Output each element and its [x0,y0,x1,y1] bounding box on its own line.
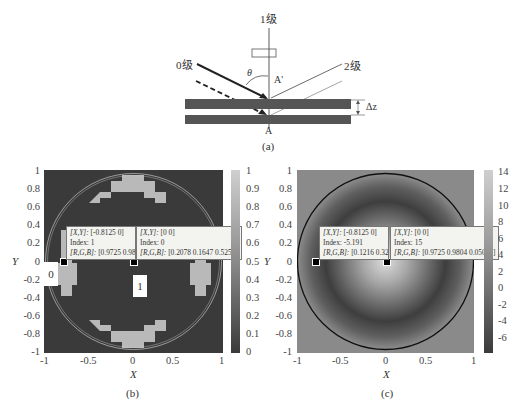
plot-c-ylabel: Y [264,255,270,267]
order-0-label: 0级 [176,56,193,72]
datatip-b-center: [X,Y]: [0 0] Index: 0 [R,G,B]: [0.2078 0… [136,226,242,260]
caption-c: (c) [381,387,393,399]
theta-label: θ [247,67,252,78]
annotation-0: 0 [44,262,58,286]
order-2-label: 2级 [344,57,361,73]
colorbar-b [231,170,240,353]
datatip-b-left: [X,Y]: [-0.8125 0] Index: 1 [R,G,B]: [0.… [66,226,136,260]
plot-b-xlabel: X [130,368,137,380]
a-label: A [265,125,272,136]
order-1-label: 1级 [260,10,277,26]
annotation-1: 1 [133,275,147,297]
colorbar-c-ticks: 14 12 10 8 6 4 2 0 -2 -4 -6 [498,165,521,360]
a-prime-label: A' [274,74,283,85]
plot-c-xlabel: X [383,368,390,380]
caption-a: (a) [262,140,274,152]
caption-b: (b) [126,387,139,399]
plot-b-ylabel: Y [12,255,18,267]
datatip-c-left: [X,Y]: [-0.8125 0] Index: -5.191 [R,G,B]… [319,226,389,260]
delta-z-label: Δz [366,101,377,112]
plot-c-yticks: 1 0.8 0.6 0.4 0.2 0 -0.2 -0.4 -0.6 -0.8 … [252,165,294,360]
colorbar-c [484,170,493,353]
plot-b-yticks: 1 0.8 0.6 0.4 0.2 0 -0.2 -0.4 -0.6 -0.8 … [0,165,42,360]
